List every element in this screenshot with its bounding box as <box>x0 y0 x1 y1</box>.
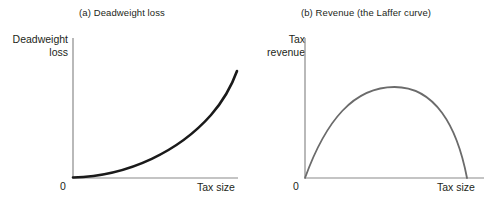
panel-b-origin-label: 0 <box>293 180 299 193</box>
two-panel-figure: (a) Deadweight loss Deadweight loss 0 Ta… <box>0 0 488 216</box>
panel-a-deadweight-loss-curve <box>73 71 237 178</box>
panel-revenue-laffer-curve: (b) Revenue (the Laffer curve) Tax reven… <box>244 0 488 216</box>
panel-a-origin-label: 0 <box>60 180 66 193</box>
panel-b-x-axis-label: Tax size <box>437 181 475 194</box>
panel-b-laffer-curve <box>305 87 467 178</box>
panel-a-x-axis-label: Tax size <box>197 181 235 194</box>
panel-deadweight-loss: (a) Deadweight loss Deadweight loss 0 Ta… <box>0 0 244 216</box>
